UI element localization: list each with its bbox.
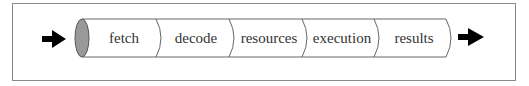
stage-execution: execution: [307, 28, 377, 48]
tube-end-ellipse: [75, 19, 89, 57]
stage-results: results: [380, 28, 448, 48]
stage-decode: decode: [162, 28, 230, 48]
stage-fetch: fetch: [92, 28, 156, 48]
stage-resources: resources: [234, 28, 304, 48]
output-arrow-icon: [458, 28, 484, 46]
input-arrow-icon: [42, 30, 66, 48]
